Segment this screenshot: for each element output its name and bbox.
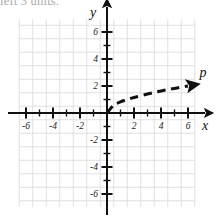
- x-tick-label-pos4: 4: [159, 121, 164, 131]
- y-tick-label-pos6: 6: [93, 27, 98, 37]
- y-tick-label-pos4: 4: [93, 54, 98, 64]
- x-axis-label: x: [201, 118, 209, 133]
- y-tick-label-neg2: -2: [90, 135, 98, 145]
- coordinate-plane: x y -6 -4 -2 2 4 6 6 4 2 -2 -4 -6 p: [0, 0, 222, 221]
- x-tick-label-pos2: 2: [132, 121, 137, 131]
- curve-p: [107, 86, 188, 113]
- y-tick-label-pos2: 2: [93, 81, 98, 91]
- x-tick-label-pos6: 6: [186, 121, 191, 131]
- y-tick-label-neg4: -4: [90, 162, 98, 172]
- x-tick-label-neg2: -2: [76, 121, 84, 131]
- curve-label-p: p: [199, 65, 207, 80]
- x-tick-label-neg6: -6: [22, 121, 30, 131]
- y-axis-label: y: [88, 5, 97, 20]
- x-tick-label-neg4: -4: [49, 121, 57, 131]
- y-tick-label-neg6: -6: [90, 189, 98, 199]
- graph-screenshot: left 3 units.: [0, 0, 222, 221]
